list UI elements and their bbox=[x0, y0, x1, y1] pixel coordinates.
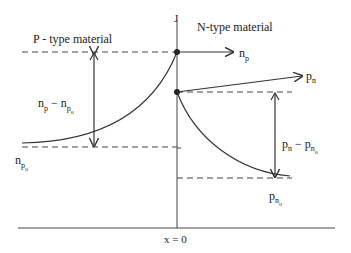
pn-profile-curve bbox=[177, 92, 290, 176]
npo-label: npo bbox=[15, 153, 28, 172]
pn-excess-label: pn − pno bbox=[282, 137, 318, 155]
minority-carrier-diagram: J P - type material N-type material np p… bbox=[0, 0, 351, 253]
junction-label: J bbox=[174, 12, 179, 24]
n-region-label: N-type material bbox=[197, 20, 273, 34]
pn-arrow bbox=[177, 76, 302, 92]
p-region-label: P - type material bbox=[33, 32, 113, 46]
np-excess-label: np − npo bbox=[38, 96, 74, 115]
x-origin-label: x = 0 bbox=[164, 233, 187, 245]
pn-arrow-label: pn bbox=[306, 69, 316, 85]
pno-label: pno bbox=[269, 189, 282, 207]
np-profile-curve bbox=[22, 52, 177, 143]
np-arrow-label: np bbox=[239, 46, 249, 63]
